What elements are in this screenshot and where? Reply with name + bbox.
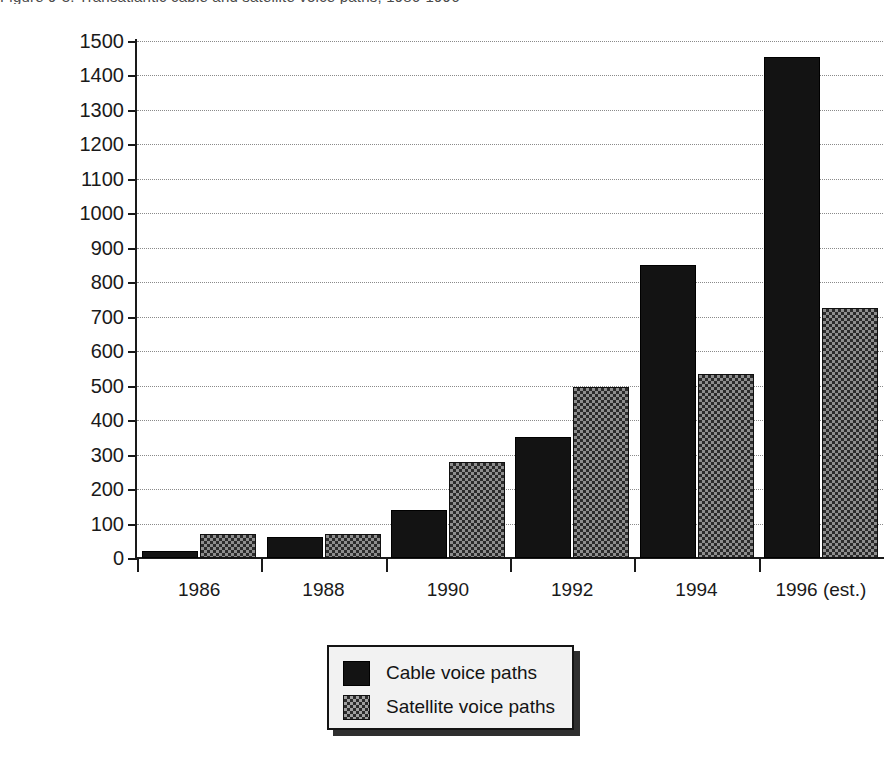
bar-satellite-1986 — [200, 534, 256, 558]
bar-satellite-1996 — [822, 308, 878, 558]
bar-cable-1992 — [515, 437, 571, 558]
y-tick-mark — [128, 75, 137, 77]
legend-swatch-cable-icon — [343, 661, 370, 686]
bar-cable-1990 — [391, 510, 447, 558]
x-tick-mark — [261, 559, 263, 572]
y-tick-mark — [128, 110, 137, 112]
y-tick-label: 300 — [62, 445, 124, 465]
y-tick-mark — [128, 420, 137, 422]
legend-item-satellite: Satellite voice paths — [343, 692, 555, 722]
legend-label-cable: Cable voice paths — [386, 663, 537, 683]
x-tick-label: 1992 — [551, 579, 593, 601]
y-tick-label: 1500 — [62, 31, 124, 51]
y-tick-mark — [128, 351, 137, 353]
bar-cable-1986 — [142, 551, 198, 558]
y-tick-label: 1100 — [62, 169, 124, 189]
bar-satellite-1992 — [573, 387, 629, 558]
bar-satellite-1994 — [698, 374, 754, 558]
y-tick-label: 900 — [62, 238, 124, 258]
y-tick-label: 0 — [62, 548, 124, 568]
y-tick-mark — [128, 317, 137, 319]
x-tick-mark — [759, 559, 761, 572]
y-tick-mark — [128, 386, 137, 388]
y-tick-label: 1400 — [62, 65, 124, 85]
y-tick-label: 100 — [62, 514, 124, 534]
legend-swatch-satellite-icon — [343, 695, 370, 720]
bar-cable-1988 — [267, 537, 323, 558]
y-tick-label: 1000 — [62, 203, 124, 223]
y-tick-label: 1200 — [62, 134, 124, 154]
y-tick-mark — [128, 248, 137, 250]
x-tick-label: 1988 — [302, 579, 344, 601]
x-tick-mark — [386, 559, 388, 572]
x-tick-mark — [137, 559, 139, 572]
gridline — [137, 41, 883, 42]
bar-cable-1994 — [640, 265, 696, 558]
y-tick-label: 400 — [62, 410, 124, 430]
y-tick-mark — [128, 282, 137, 284]
y-tick-mark — [128, 179, 137, 181]
legend-label-satellite: Satellite voice paths — [386, 697, 555, 717]
x-tick-label: 1990 — [427, 579, 469, 601]
x-tick-label: 1996 (est.) — [775, 579, 866, 601]
x-tick-mark — [634, 559, 636, 572]
y-tick-mark — [128, 144, 137, 146]
y-tick-label: 1300 — [62, 100, 124, 120]
y-tick-mark — [128, 213, 137, 215]
y-tick-mark — [128, 455, 137, 457]
bar-chart-figure: Voice Paths 1000's 010020030040050060070… — [0, 0, 891, 776]
bar-satellite-1990 — [449, 462, 505, 559]
y-tick-label: 700 — [62, 307, 124, 327]
y-tick-mark — [128, 558, 137, 560]
y-tick-mark — [128, 489, 137, 491]
y-tick-mark — [128, 524, 137, 526]
legend-item-cable: Cable voice paths — [343, 658, 537, 688]
y-tick-label: 600 — [62, 341, 124, 361]
y-tick-mark — [128, 41, 137, 43]
chart-legend: Cable voice paths Satellite voice paths — [327, 645, 574, 730]
x-axis-tick-layer: 198619881990199219941996 (est.) — [137, 559, 883, 609]
x-tick-mark — [510, 559, 512, 572]
x-tick-label: 1994 — [675, 579, 717, 601]
y-tick-label: 500 — [62, 376, 124, 396]
x-tick-label: 1986 — [178, 579, 220, 601]
y-tick-label: 200 — [62, 479, 124, 499]
bar-satellite-1988 — [325, 534, 381, 558]
y-tick-label: 800 — [62, 272, 124, 292]
plot-area: 0100200300400500600700800900100011001200… — [137, 41, 883, 558]
bar-cable-1996 — [764, 57, 820, 558]
